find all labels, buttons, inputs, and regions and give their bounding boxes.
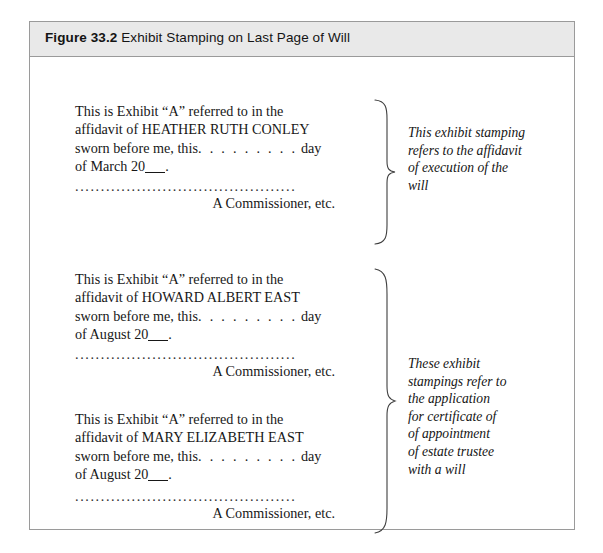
commissioner-signature-group-1: ........................................…: [75, 180, 347, 213]
commissioner-signature-group-2: ........................................…: [75, 348, 347, 381]
figure-caption-title: Exhibit Stamping on Last Page of Will: [121, 30, 350, 45]
annotation-line: stampings refer to: [408, 373, 583, 391]
exhibit-stamp-block-3: This is Exhibit “A” referred to in the a…: [75, 410, 340, 483]
stamp-line-3-suffix: day: [301, 140, 322, 156]
exhibit-stamp-block-2: This is Exhibit “A” referred to in the a…: [75, 270, 340, 343]
annotation-block-1: This exhibit stamping refers to the affi…: [408, 124, 583, 194]
stamp-line-2-prefix: affidavit of: [75, 289, 142, 305]
figure-body: This is Exhibit “A” referred to in the a…: [30, 58, 574, 529]
exhibit-stamp-block-1: This is Exhibit “A” referred to in the a…: [75, 102, 340, 175]
commissioner-label: A Commissioner, etc.: [75, 193, 347, 213]
stamp-deponent-name: MARY ELIZABETH EAST: [142, 429, 304, 445]
signature-leader-line: ........................................…: [75, 180, 347, 193]
stamp-line-3: sworn before me, this. . . . . . . . . d…: [75, 307, 340, 325]
stamp-line-3: sworn before me, this. . . . . . . . . d…: [75, 139, 340, 157]
stamp-line-2-prefix: affidavit of: [75, 121, 142, 137]
annotation-line: of execution of the: [408, 159, 583, 177]
brace-group-1: [371, 99, 397, 245]
stamp-year-suffix: .: [168, 466, 172, 482]
stamp-month: August: [90, 466, 131, 482]
annotation-line: will: [408, 177, 583, 195]
stamp-line-2: affidavit of MARY ELIZABETH EAST: [75, 428, 340, 446]
annotation-line: for certificate of: [408, 408, 583, 426]
stamp-line-1: This is Exhibit “A” referred to in the: [75, 270, 340, 288]
figure-number: Figure 33.2: [45, 30, 117, 45]
stamp-deponent-name: HOWARD ALBERT EAST: [142, 289, 300, 305]
stamp-line-3-suffix: day: [301, 308, 322, 324]
stamp-line-2-prefix: affidavit of: [75, 429, 142, 445]
stamp-line-1: This is Exhibit “A” referred to in the: [75, 410, 340, 428]
annotation-block-2: These exhibit stampings refer to the app…: [408, 355, 583, 478]
stamp-day-dots: . . . . . . . . .: [198, 448, 297, 464]
stamp-year-suffix: .: [165, 158, 169, 174]
stamp-line-3-prefix: sworn before me, this: [75, 308, 198, 324]
stamp-year-prefix: 20: [131, 466, 149, 482]
stamp-year-blank: [145, 172, 165, 173]
stamp-line-2: affidavit of HOWARD ALBERT EAST: [75, 288, 340, 306]
stamp-year-suffix: .: [168, 326, 172, 342]
stamp-year-prefix: 20: [127, 158, 145, 174]
stamp-line-4-prefix: of: [75, 326, 90, 342]
commissioner-signature-group-3: ........................................…: [75, 490, 347, 523]
annotation-line: These exhibit: [408, 355, 583, 373]
figure-caption-bar: Figure 33.2 Exhibit Stamping on Last Pag…: [30, 22, 574, 57]
commissioner-label: A Commissioner, etc.: [75, 503, 347, 523]
signature-leader-line: ........................................…: [75, 490, 347, 503]
annotation-line: the application: [408, 390, 583, 408]
stamp-line-3: sworn before me, this. . . . . . . . . d…: [75, 447, 340, 465]
annotation-line: refers to the affidavit: [408, 142, 583, 160]
signature-leader-line: ........................................…: [75, 348, 347, 361]
annotation-line: of appointment: [408, 425, 583, 443]
commissioner-label: A Commissioner, etc.: [75, 361, 347, 381]
stamp-line-4: of August 20.: [75, 465, 340, 483]
figure-caption: Figure 33.2 Exhibit Stamping on Last Pag…: [45, 30, 350, 45]
stamp-day-dots: . . . . . . . . .: [198, 308, 297, 324]
stamp-line-1: This is Exhibit “A” referred to in the: [75, 102, 340, 120]
stamp-year-prefix: 20: [131, 326, 149, 342]
brace-group-2: [371, 268, 397, 534]
annotation-line: with a will: [408, 461, 583, 479]
stamp-line-4-prefix: of: [75, 158, 90, 174]
stamp-line-3-suffix: day: [301, 448, 322, 464]
figure-container: Figure 33.2 Exhibit Stamping on Last Pag…: [29, 21, 575, 530]
stamp-line-4: of March 20.: [75, 157, 340, 175]
stamp-line-3-prefix: sworn before me, this: [75, 140, 198, 156]
stamp-line-3-prefix: sworn before me, this: [75, 448, 198, 464]
stamp-line-4-prefix: of: [75, 466, 90, 482]
stamp-year-blank: [148, 480, 168, 481]
stamp-month: August: [90, 326, 131, 342]
stamp-day-dots: . . . . . . . . .: [198, 140, 297, 156]
stamp-deponent-name: HEATHER RUTH CONLEY: [142, 121, 310, 137]
stamp-line-2: affidavit of HEATHER RUTH CONLEY: [75, 120, 340, 138]
stamp-year-blank: [148, 340, 168, 341]
stamp-month: March: [90, 158, 127, 174]
annotation-line: of estate trustee: [408, 443, 583, 461]
annotation-line: This exhibit stamping: [408, 124, 583, 142]
stamp-line-4: of August 20.: [75, 325, 340, 343]
